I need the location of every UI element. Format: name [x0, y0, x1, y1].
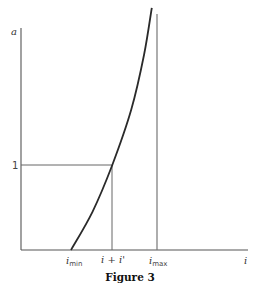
x-tick-i-plus-i-prime: i + i' — [101, 254, 125, 265]
figure-caption: Figure 3 — [105, 271, 155, 283]
y-tick-1: 1 — [12, 160, 18, 171]
x-axis-label: i — [244, 255, 247, 266]
x-tick-i-max: imax — [149, 255, 167, 268]
x-tick-i-min: imin — [66, 255, 82, 268]
series-curve — [71, 8, 152, 250]
figure: a 1 imin i + i' imax i Figure 3 — [0, 0, 260, 285]
y-axis-label: a — [11, 26, 17, 37]
